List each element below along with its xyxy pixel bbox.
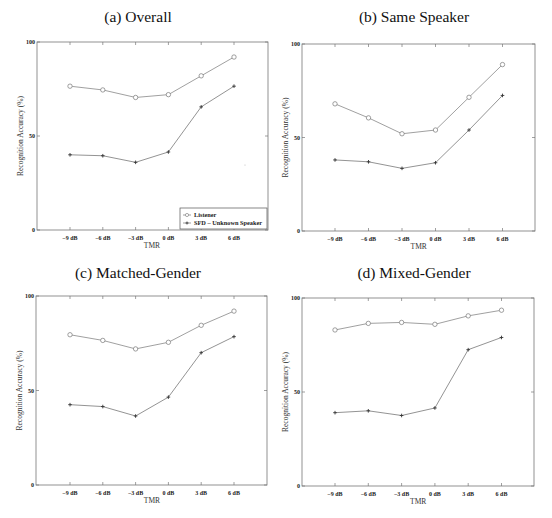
x-tick-label: 0 dB <box>162 490 174 496</box>
x-tick-label: 6 dB <box>496 491 508 497</box>
circle-marker <box>199 74 203 78</box>
x-tick-label: 0 dB <box>162 235 174 241</box>
chart-overall: 050100−9 dB−6 dB−3 dB0 dB3 dB6 dBTMRReco… <box>0 0 276 259</box>
x-tick-label: 0 dB <box>429 491 441 497</box>
circle-marker <box>433 322 437 326</box>
circle-marker <box>366 321 370 325</box>
x-tick-label: −6 dB <box>361 236 376 242</box>
sfd-line <box>335 337 502 415</box>
x-tick-label: 3 dB <box>195 235 207 241</box>
plot-frame <box>302 44 535 231</box>
circle-marker <box>433 128 437 132</box>
x-tick-label: −9 dB <box>62 490 77 496</box>
y-tick-label: 50 <box>294 389 300 395</box>
circle-marker <box>400 132 404 136</box>
panel-mixed-gender: (d) Mixed-Gender 050100−9 dB−6 dB−3 dB0 … <box>276 259 552 518</box>
x-tick-label: −9 dB <box>327 491 342 497</box>
x-tick-label: −6 dB <box>361 491 376 497</box>
circle-marker <box>101 338 105 342</box>
plus-marker <box>68 153 72 157</box>
x-tick-label: 6 dB <box>228 490 240 496</box>
chart-matched-gender: 050100−9 dB−6 dB−3 dB0 dB3 dB6 dBTMRReco… <box>0 259 276 518</box>
y-tick-label: 0 <box>32 227 35 233</box>
y-tick-label: 100 <box>291 295 300 301</box>
x-tick-label: −3 dB <box>394 236 409 242</box>
panel-overall: (a) Overall 050100−9 dB−6 dB−3 dB0 dB3 d… <box>0 0 276 259</box>
x-tick-label: 6 dB <box>228 235 240 241</box>
plus-marker <box>433 406 437 410</box>
circle-marker <box>467 95 471 99</box>
circle-marker <box>333 328 337 332</box>
x-tick-label: −9 dB <box>327 236 342 242</box>
y-tick-label: 100 <box>25 293 34 299</box>
listener-line <box>335 310 502 330</box>
x-tick-label: −6 dB <box>95 235 110 241</box>
plot-frame <box>37 42 268 230</box>
chart-same-speaker: 050100−9 dB−6 dB−3 dB0 dB3 dB6 dBTMRReco… <box>276 0 552 259</box>
legend-label: Listener <box>194 211 217 218</box>
x-axis-label: TMR <box>144 496 160 505</box>
circle-marker <box>466 314 470 318</box>
plus-marker <box>466 348 470 352</box>
chart-mixed-gender: 050100−9 dB−6 dB−3 dB0 dB3 dB6 dBTMRReco… <box>276 259 552 518</box>
plus-marker <box>68 403 72 407</box>
circle-marker <box>68 333 72 337</box>
x-tick-label: −3 dB <box>128 235 143 241</box>
sfd-line <box>70 337 234 416</box>
plus-marker <box>333 411 337 415</box>
listener-line <box>70 57 234 97</box>
x-tick-label: 0 dB <box>430 236 442 242</box>
circle-marker <box>366 116 370 120</box>
x-tick-label: −3 dB <box>128 490 143 496</box>
plot-frame <box>302 298 534 486</box>
x-axis-label: TMR <box>410 497 426 506</box>
x-axis-label: TMR <box>144 241 160 250</box>
legend-label: SFD – Unknown Speaker <box>194 219 262 226</box>
plus-marker <box>134 161 138 165</box>
panel-matched-gender: (c) Matched-Gender 050100−9 dB−6 dB−3 dB… <box>0 259 276 518</box>
panel-same-speaker: (b) Same Speaker 050100−9 dB−6 dB−3 dB0 … <box>276 0 552 259</box>
plus-marker <box>400 167 404 171</box>
sfd-line <box>70 86 234 162</box>
plus-marker <box>367 409 371 413</box>
plus-marker <box>101 154 105 158</box>
x-tick-label: −6 dB <box>95 490 110 496</box>
circle-marker <box>133 347 137 351</box>
x-tick-label: 6 dB <box>497 236 509 242</box>
plus-marker <box>500 336 504 340</box>
circle-marker <box>166 340 170 344</box>
y-axis-label: Recognition Accuracy (%) <box>16 96 25 176</box>
y-tick-label: 0 <box>297 483 300 489</box>
y-tick-label: 50 <box>29 133 35 139</box>
y-tick-label: 100 <box>291 41 300 47</box>
y-tick-label: 0 <box>31 482 34 488</box>
circle-marker <box>133 95 137 99</box>
y-axis-label: Recognition Accuracy (%) <box>281 97 290 177</box>
plus-marker <box>333 158 337 162</box>
circle-marker <box>68 84 72 88</box>
circle-marker <box>199 323 203 327</box>
circle-marker <box>101 88 105 92</box>
y-axis-label: Recognition Accuracy (%) <box>281 352 290 432</box>
listener-line <box>70 311 234 349</box>
x-axis-label: TMR <box>411 242 427 251</box>
circle-marker <box>232 309 236 313</box>
x-tick-label: 3 dB <box>463 236 475 242</box>
circle-marker <box>232 55 236 59</box>
plus-marker <box>367 160 371 164</box>
artifact-dot <box>244 164 245 165</box>
circle-marker <box>399 320 403 324</box>
y-tick-label: 100 <box>26 39 35 45</box>
y-tick-label: 50 <box>28 388 34 394</box>
legend-circle-icon <box>185 213 188 216</box>
y-axis-label: Recognition Accuracy (%) <box>15 350 24 430</box>
y-tick-label: 0 <box>297 228 300 234</box>
plot-frame <box>36 296 267 485</box>
x-tick-label: −9 dB <box>62 235 77 241</box>
plus-marker <box>134 414 138 418</box>
circle-marker <box>499 308 503 312</box>
plus-marker <box>101 405 105 409</box>
x-tick-label: −3 dB <box>394 491 409 497</box>
plus-marker <box>232 335 236 339</box>
circle-marker <box>333 102 337 106</box>
